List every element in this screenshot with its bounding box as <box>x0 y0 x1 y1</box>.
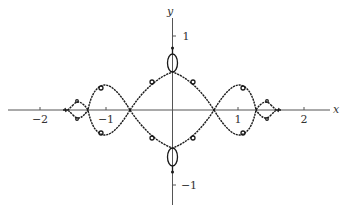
x-tick-label: −2 <box>32 113 48 126</box>
x-axis-label: x <box>333 103 340 116</box>
y-axis-label: y <box>166 5 174 18</box>
y-tick-label: 1 <box>183 30 190 43</box>
x-tick-label: 2 <box>301 113 308 126</box>
x-tick-label: 1 <box>235 113 242 126</box>
y-tick-label: −1 <box>181 179 197 192</box>
x-tick-label: −1 <box>98 113 114 126</box>
julia-set-plot: −2 −1 1 2 1 −1 y x <box>0 0 340 209</box>
